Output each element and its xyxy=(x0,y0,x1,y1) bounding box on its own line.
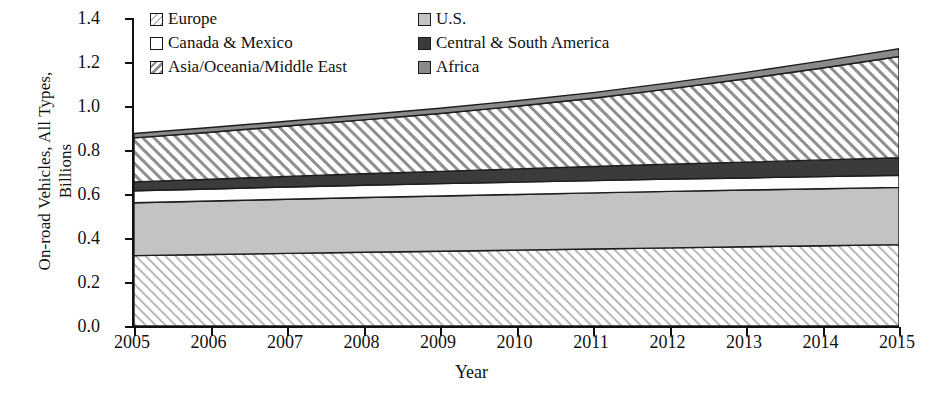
legend-label: Canada & Mexico xyxy=(168,31,293,55)
y-tick-mark xyxy=(125,150,134,152)
x-tick-label: 2006 xyxy=(177,333,241,351)
x-tick-label: 2008 xyxy=(330,333,394,351)
x-tick-label: 2005 xyxy=(100,333,164,351)
x-tick-label: 2013 xyxy=(712,333,776,351)
x-tick-label: 2015 xyxy=(865,333,929,351)
x-tick-label: 2012 xyxy=(636,333,700,351)
legend-column-right: U.S.Central & South AmericaAfrica xyxy=(418,7,609,79)
x-tick-label: 2007 xyxy=(253,333,317,351)
legend-swatch-icon xyxy=(418,13,431,26)
legend-label: Central & South America xyxy=(436,31,609,55)
legend-label: Europe xyxy=(168,7,217,31)
legend-entry[interactable]: Central & South America xyxy=(418,31,609,55)
y-tick-mark xyxy=(125,194,134,196)
legend-entry[interactable]: U.S. xyxy=(418,7,609,31)
y-tick-label: 0.2 xyxy=(54,273,100,291)
y-tick-mark xyxy=(125,282,134,284)
legend-entry[interactable]: Canada & Mexico xyxy=(150,31,347,55)
stacked-area-chart: On-road Vehicles, All Types, Billions 1.… xyxy=(0,0,943,399)
legend-swatch-icon xyxy=(418,61,431,74)
legend-swatch-icon xyxy=(418,37,431,50)
x-tick-label: 2011 xyxy=(559,333,623,351)
legend-entry[interactable]: Asia/Oceania/Middle East xyxy=(150,55,347,79)
legend-label: U.S. xyxy=(436,7,466,31)
x-tick-label: 2010 xyxy=(483,333,547,351)
y-tick-mark xyxy=(125,238,134,240)
y-tick-label: 1.0 xyxy=(54,97,100,115)
legend-entry[interactable]: Africa xyxy=(418,55,609,79)
chart-legend: EuropeCanada & MexicoAsia/Oceania/Middle… xyxy=(150,7,910,83)
y-tick-mark xyxy=(125,62,134,64)
x-tick-label: 2009 xyxy=(406,333,470,351)
legend-entry[interactable]: Europe xyxy=(150,7,347,31)
y-tick-mark xyxy=(125,106,134,108)
legend-swatch-icon xyxy=(150,37,163,50)
y-tick-label: 0.6 xyxy=(54,185,100,203)
legend-label: Africa xyxy=(436,55,479,79)
legend-swatch-icon xyxy=(150,13,163,26)
legend-label: Asia/Oceania/Middle East xyxy=(168,55,347,79)
y-tick-label: 1.2 xyxy=(54,53,100,71)
x-tick-label: 2014 xyxy=(789,333,853,351)
area-series xyxy=(134,245,899,326)
y-tick-mark xyxy=(125,18,134,20)
x-axis-tick-labels: 2005200620072008200920102011201220132014… xyxy=(0,333,943,359)
x-axis-title: Year xyxy=(0,362,943,382)
y-tick-label: 0.8 xyxy=(54,141,100,159)
y-tick-mark xyxy=(125,326,134,328)
legend-swatch-icon xyxy=(150,61,163,74)
legend-column-left: EuropeCanada & MexicoAsia/Oceania/Middle… xyxy=(150,7,347,79)
y-tick-label: 1.4 xyxy=(54,9,100,27)
y-tick-label: 0.4 xyxy=(54,229,100,247)
